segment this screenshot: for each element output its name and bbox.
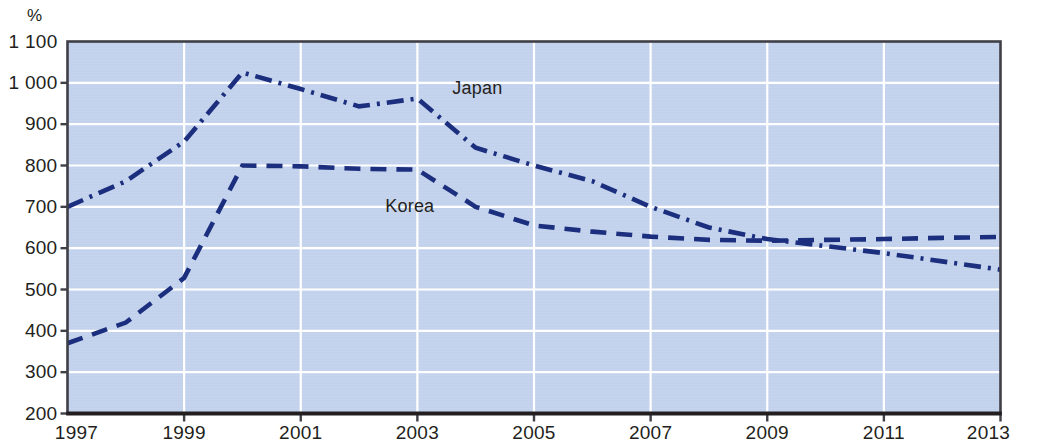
x-tick-label: 1997 — [32, 422, 122, 440]
y-tick-label: 800 — [0, 155, 58, 177]
x-tick-label: 2009 — [722, 422, 812, 440]
chart-container: % 2003004005006007008009001 0001 100 199… — [0, 0, 1043, 440]
y-tick-label: 1 100 — [0, 31, 58, 53]
x-tick-label: 2011 — [839, 422, 929, 440]
y-tick-label: 600 — [0, 237, 58, 259]
line-chart-plot — [0, 0, 1043, 440]
x-tick-label: 2001 — [256, 422, 346, 440]
y-tick-label: 300 — [0, 361, 58, 383]
y-tick-label: 900 — [0, 113, 58, 135]
y-tick-label: 400 — [0, 320, 58, 342]
x-tick-label: 2003 — [372, 422, 462, 440]
x-tick-label: 2005 — [489, 422, 579, 440]
y-tick-label: 500 — [0, 279, 58, 301]
x-tick-label: 2013 — [944, 422, 1034, 440]
y-tick-label: 1 000 — [0, 72, 58, 94]
x-tick-label: 2007 — [606, 422, 696, 440]
series-label-korea: Korea — [385, 196, 434, 217]
x-tick-label: 1999 — [139, 422, 229, 440]
y-tick-label: 700 — [0, 196, 58, 218]
series-label-japan: Japan — [452, 78, 502, 99]
